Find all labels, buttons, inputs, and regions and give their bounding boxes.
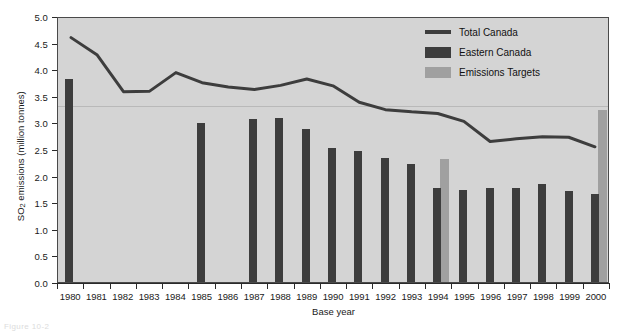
legend-label: Emissions Targets [459,67,540,78]
legend-label: Eastern Canada [459,47,531,58]
x-tick-mark [215,284,216,289]
y-axis-title-sub: 2 [18,203,27,207]
x-tick-mark [57,284,58,289]
legend-gray-bar-swatch [425,67,451,78]
y-tick-label: 3.0 [34,118,48,129]
x-tick-label: 1989 [296,291,317,302]
y-tick-label: 2.5 [34,145,48,156]
x-tick-mark [425,284,426,289]
x-tick-label: 1990 [323,291,344,302]
y-axis: SO2 emissions (million tonnes) 5.04.54.0… [0,0,57,300]
x-tick-label: 1987 [244,291,265,302]
x-tick-mark [504,284,505,289]
x-tick-label: 1985 [191,291,212,302]
x-tick-mark [136,284,137,289]
x-tick-mark [188,284,189,289]
x-tick-label: 1982 [112,291,133,302]
x-tick-mark [478,284,479,289]
y-tick-label: 3.5 [34,91,48,102]
x-tick-mark [110,284,111,289]
y-tick-label: 0.5 [34,251,48,262]
x-axis-title: Base year [57,306,610,317]
x-tick-label: 1983 [139,291,160,302]
y-tick-label: 2.0 [34,171,48,182]
x-tick-mark [372,284,373,289]
x-tick-mark [609,284,610,289]
chart-legend: Total CanadaEastern CanadaEmissions Targ… [425,22,600,82]
x-tick-mark [294,284,295,289]
y-tick-label: 5.0 [34,12,48,23]
x-tick-label: 2000 [585,291,606,302]
legend-item: Total Canada [425,22,600,42]
x-tick-label: 1981 [86,291,107,302]
x-tick-mark [451,284,452,289]
y-axis-title-post: emissions (million tonnes) [15,91,26,203]
x-tick-label: 1991 [349,291,370,302]
y-axis-title: SO2 emissions (million tonnes) [15,31,28,281]
x-tick-mark [556,284,557,289]
x-tick-label: 1998 [533,291,554,302]
x-tick-mark [267,284,268,289]
x-tick-mark [162,284,163,289]
legend-item: Eastern Canada [425,42,600,62]
x-tick-mark [530,284,531,289]
x-tick-label: 1988 [270,291,291,302]
x-tick-label: 1984 [165,291,186,302]
legend-dark-bar-swatch [425,47,451,58]
y-tick-label: 4.5 [34,38,48,49]
x-tick-mark [83,284,84,289]
x-tick-label: 1992 [375,291,396,302]
y-tick-label: 4.0 [34,65,48,76]
y-tick-label: 1.5 [34,198,48,209]
figure-container: SO2 emissions (million tonnes) 5.04.54.0… [0,0,627,335]
x-tick-label: 1995 [454,291,475,302]
x-tick-label: 1986 [217,291,238,302]
x-tick-label: 1993 [401,291,422,302]
x-tick-label: 1996 [480,291,501,302]
x-tick-label: 1997 [507,291,528,302]
x-tick-label: 1999 [559,291,580,302]
x-tick-mark [346,284,347,289]
legend-label: Total Canada [459,27,518,38]
x-axis-line [57,283,610,284]
y-tick-label: 1.0 [34,224,48,235]
x-tick-mark [320,284,321,289]
legend-item: Emissions Targets [425,62,600,82]
x-tick-mark [399,284,400,289]
figure-caption: Figure 10-2 [4,322,49,331]
x-tick-mark [241,284,242,289]
x-axis: 1980198119821983198419851986198719881989… [57,283,610,323]
y-tick-label: 0.0 [34,278,48,289]
legend-line-swatch [425,30,451,34]
x-tick-label: 1980 [60,291,81,302]
x-tick-mark [583,284,584,289]
y-axis-title-pre: SO [15,207,26,221]
x-tick-label: 1994 [428,291,449,302]
